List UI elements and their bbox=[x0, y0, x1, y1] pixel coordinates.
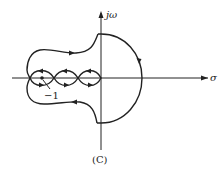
direction-arrow-icon bbox=[64, 83, 69, 88]
real-axis-arrow-icon bbox=[201, 76, 208, 81]
direction-arrow-icon bbox=[88, 83, 93, 88]
critical-point-label: −1 bbox=[44, 91, 59, 101]
direction-arrow-icon bbox=[39, 83, 44, 88]
imag-axis-arrow-icon bbox=[99, 11, 104, 18]
direction-arrow-icon bbox=[38, 69, 43, 74]
direction-arrow-icon bbox=[69, 51, 75, 56]
figure-caption: (C) bbox=[92, 155, 107, 165]
direction-arrow-icon bbox=[71, 100, 77, 105]
direction-arrow-icon bbox=[62, 69, 67, 74]
critical-point-leader bbox=[43, 80, 50, 89]
critical-point bbox=[40, 76, 44, 80]
real-axis-label: σ bbox=[210, 73, 217, 83]
nyquist-diagram: jω σ −1 (C) bbox=[0, 0, 222, 172]
diagram-canvas bbox=[0, 0, 222, 172]
direction-arrow-icon bbox=[86, 69, 91, 74]
direction-arrow-icon bbox=[137, 58, 142, 64]
imag-axis-label: jω bbox=[106, 10, 117, 20]
